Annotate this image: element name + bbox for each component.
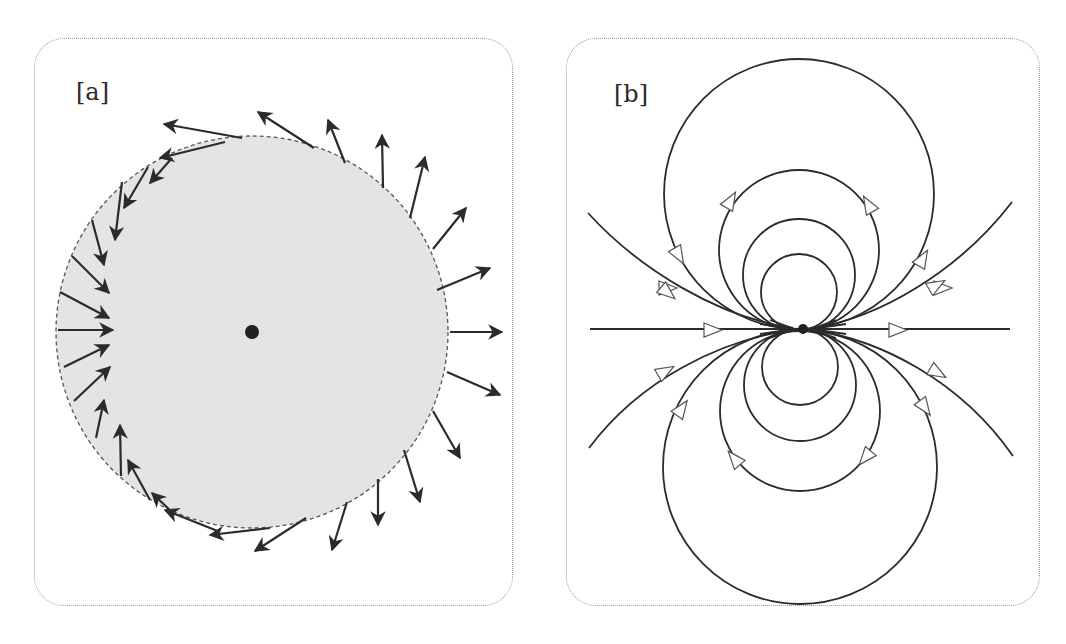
field-line-top-2 xyxy=(719,170,879,330)
field-line-bottom-1 xyxy=(663,330,937,604)
open-arrowhead-icon xyxy=(889,323,907,337)
field-line-bottom-4 xyxy=(762,329,838,405)
field-line-bottom-2 xyxy=(720,331,880,491)
panel-b-label: [b] xyxy=(614,80,648,108)
open-arrowhead-icon xyxy=(704,323,722,337)
open-arrowhead-icon xyxy=(857,193,878,216)
field-line-open-upper-left xyxy=(588,213,793,328)
vector-arrow xyxy=(437,268,490,290)
panel-a-label: [a] xyxy=(76,78,109,106)
field-line-top-4 xyxy=(761,254,837,330)
field-line-bottom-3 xyxy=(744,329,856,441)
open-arrowhead-icon xyxy=(720,189,741,212)
dipole-center-dot xyxy=(798,324,808,334)
open-arrowhead-icon xyxy=(914,397,936,420)
point-charge-dot xyxy=(245,325,259,339)
field-line-top-3 xyxy=(743,219,855,331)
open-arrowhead-icon xyxy=(912,247,933,270)
vector-arrow xyxy=(120,425,121,476)
open-arrowhead-icon xyxy=(671,397,693,420)
vector-arrow xyxy=(433,411,460,458)
open-arrowhead-icon xyxy=(655,360,678,381)
vector-arrow xyxy=(404,450,420,502)
figure-canvas xyxy=(0,0,1066,644)
panel-b-diagram xyxy=(588,59,1013,604)
open-arrowhead-icon xyxy=(668,245,689,268)
field-line-top-1 xyxy=(664,59,934,329)
field-line-open-lower-left xyxy=(589,330,793,448)
vector-arrow xyxy=(447,372,500,395)
vector-arrow xyxy=(164,124,242,138)
panel-a-diagram xyxy=(56,112,502,551)
vector-arrow xyxy=(382,135,383,188)
vector-arrow xyxy=(410,157,425,218)
vector-arrow xyxy=(433,208,466,249)
